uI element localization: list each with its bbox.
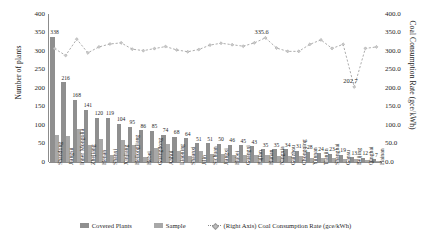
bar-group [327,14,338,162]
y-axis-left-tick: 50 [38,140,45,147]
bar-group [338,14,349,162]
bar-group [271,14,282,162]
bar-group [360,14,371,162]
legend-label: Covered Plants [92,222,132,229]
y-axis-left-tick: 400 [35,11,46,18]
bar-group [282,14,293,162]
y-axis-right-tick: 50.0 [385,140,397,147]
y-axis-left-tick: 0 [42,159,46,166]
legend-label: Sample [166,222,186,229]
y-axis-right-tick: 350.0 [385,29,401,36]
x-axis-category-label: Inner Mongolia [79,129,85,165]
x-axis-category-label: Jiangsu [68,148,74,165]
y-axis-right-tick: 400.0 [385,11,401,18]
y-axis-right-tick: 300.0 [385,48,401,55]
x-axis-category-label: Shanxi [112,149,118,165]
coal-plant-chart: Number of plants Coal Consumption Rate (… [0,0,431,241]
x-axis-category-label: Jilin [201,155,207,165]
legend-item[interactable]: Covered Plants [80,222,132,229]
legend-label: (Right Axis) Coal Consumption Rate (gce/… [224,222,352,229]
x-axis-category-label: Sichuan [212,146,218,165]
x-axis-category-label: Fujian [257,150,263,165]
swatch-sample-icon [154,223,163,228]
y-axis-left-tick: 250 [35,66,46,73]
y-axis-left-tick: 350 [35,29,46,36]
x-axis-category-label: Hebei [146,151,152,165]
bar-group [249,14,260,162]
y-axis-right-tick: 200.0 [385,85,401,92]
bar-group [105,14,116,162]
x-axis-category-label: Hainan [379,148,385,165]
x-axis-category-labels: ShandongJiangsuInner MongoliaZhejiangHen… [49,164,382,216]
x-axis-category-label: Heilongjiang [134,135,140,165]
x-axis-category-label: Guangxi [245,145,251,165]
plot-area: 3382161681411201191049586857468645151504… [49,14,382,162]
bar-group [349,14,360,162]
y-axis-right-tick: 0.0 [385,159,394,166]
x-axis-category-label: Beijing [356,148,362,165]
y-axis-right-tick: 100.0 [385,122,401,129]
chart-legend: Covered PlantsSample(Right Axis) Coal Co… [0,222,431,229]
x-axis-category-label: Shaanxi [190,146,196,165]
legend-item[interactable]: Sample [154,222,186,229]
x-axis-category-label: Ningxia [279,146,285,165]
x-axis-category-label: Zhejiang [90,144,96,165]
y-axis-right-ticks: 0.050.0100.0150.0200.0250.0300.0350.0400… [385,0,427,241]
x-axis-category-label: Qinghai [368,146,374,165]
x-axis-category-label: Shandong [57,142,63,165]
bar-group [116,14,127,162]
x-axis-category-label: Tianjin [323,148,329,165]
x-axis-category-label: Hunan [268,150,274,165]
y-axis-left-tick: 300 [35,48,46,55]
x-axis-category-label: Chongqing [301,139,307,165]
x-axis-category-label: Anhui [168,151,174,166]
legend-item[interactable]: (Right Axis) Coal Consumption Rate (gce/… [208,222,352,229]
x-axis-category-label: Gansu [345,150,351,165]
y-axis-right-tick: 150.0 [385,103,401,110]
bar-group [171,14,182,162]
x-axis-category-label: Xinjiang [123,145,129,165]
x-axis-category-label: Liaoning [179,144,185,165]
bar-group [93,14,104,162]
bar-group [49,14,60,162]
x-axis-category-label: Shanghai [334,143,340,165]
bar-group [371,14,382,162]
y-axis-left-ticks: 050100150200250300350400 [11,0,47,241]
y-axis-left-tick: 150 [35,103,46,110]
y-axis-left-tick: 200 [35,85,46,92]
swatch-line-icon [208,223,221,228]
y-axis-right-tick: 250.0 [385,66,401,73]
x-axis-category-label: Henan [101,150,107,165]
coal-rate-annotation: 202.7 [343,77,357,84]
bar-group [315,14,326,162]
coal-rate-annotation: 335.6 [254,28,268,35]
bar-group [60,14,71,162]
bar-group [260,14,271,162]
x-axis-category-label: Hubei [234,151,240,165]
x-axis-category-label: Jiangxi [223,148,229,165]
x-axis-category-label: Guangdong [157,138,163,165]
x-axis-category-label: Guizhou [290,145,296,165]
y-axis-left-tick: 100 [35,122,46,129]
x-axis-category-label: Yunnan [312,147,318,165]
swatch-covered-icon [80,223,89,228]
